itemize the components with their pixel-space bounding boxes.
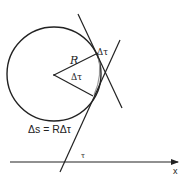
- curvature-diagram: R Δτ Δτ Δs = RΔτ τ x: [0, 0, 187, 186]
- tangent-line-lower: [60, 40, 120, 172]
- delta-tau-angle-label: Δτ: [71, 72, 82, 82]
- arc-length-formula: Δs = RΔτ: [28, 123, 72, 135]
- center-point: [53, 74, 55, 76]
- circle: [7, 27, 101, 121]
- tangent-line-upper: [78, 14, 122, 108]
- tau-label: τ: [81, 152, 85, 160]
- radius-label: R: [69, 54, 78, 67]
- delta-tau-outer-label: Δτ: [97, 47, 108, 57]
- x-axis-label: x: [173, 166, 178, 176]
